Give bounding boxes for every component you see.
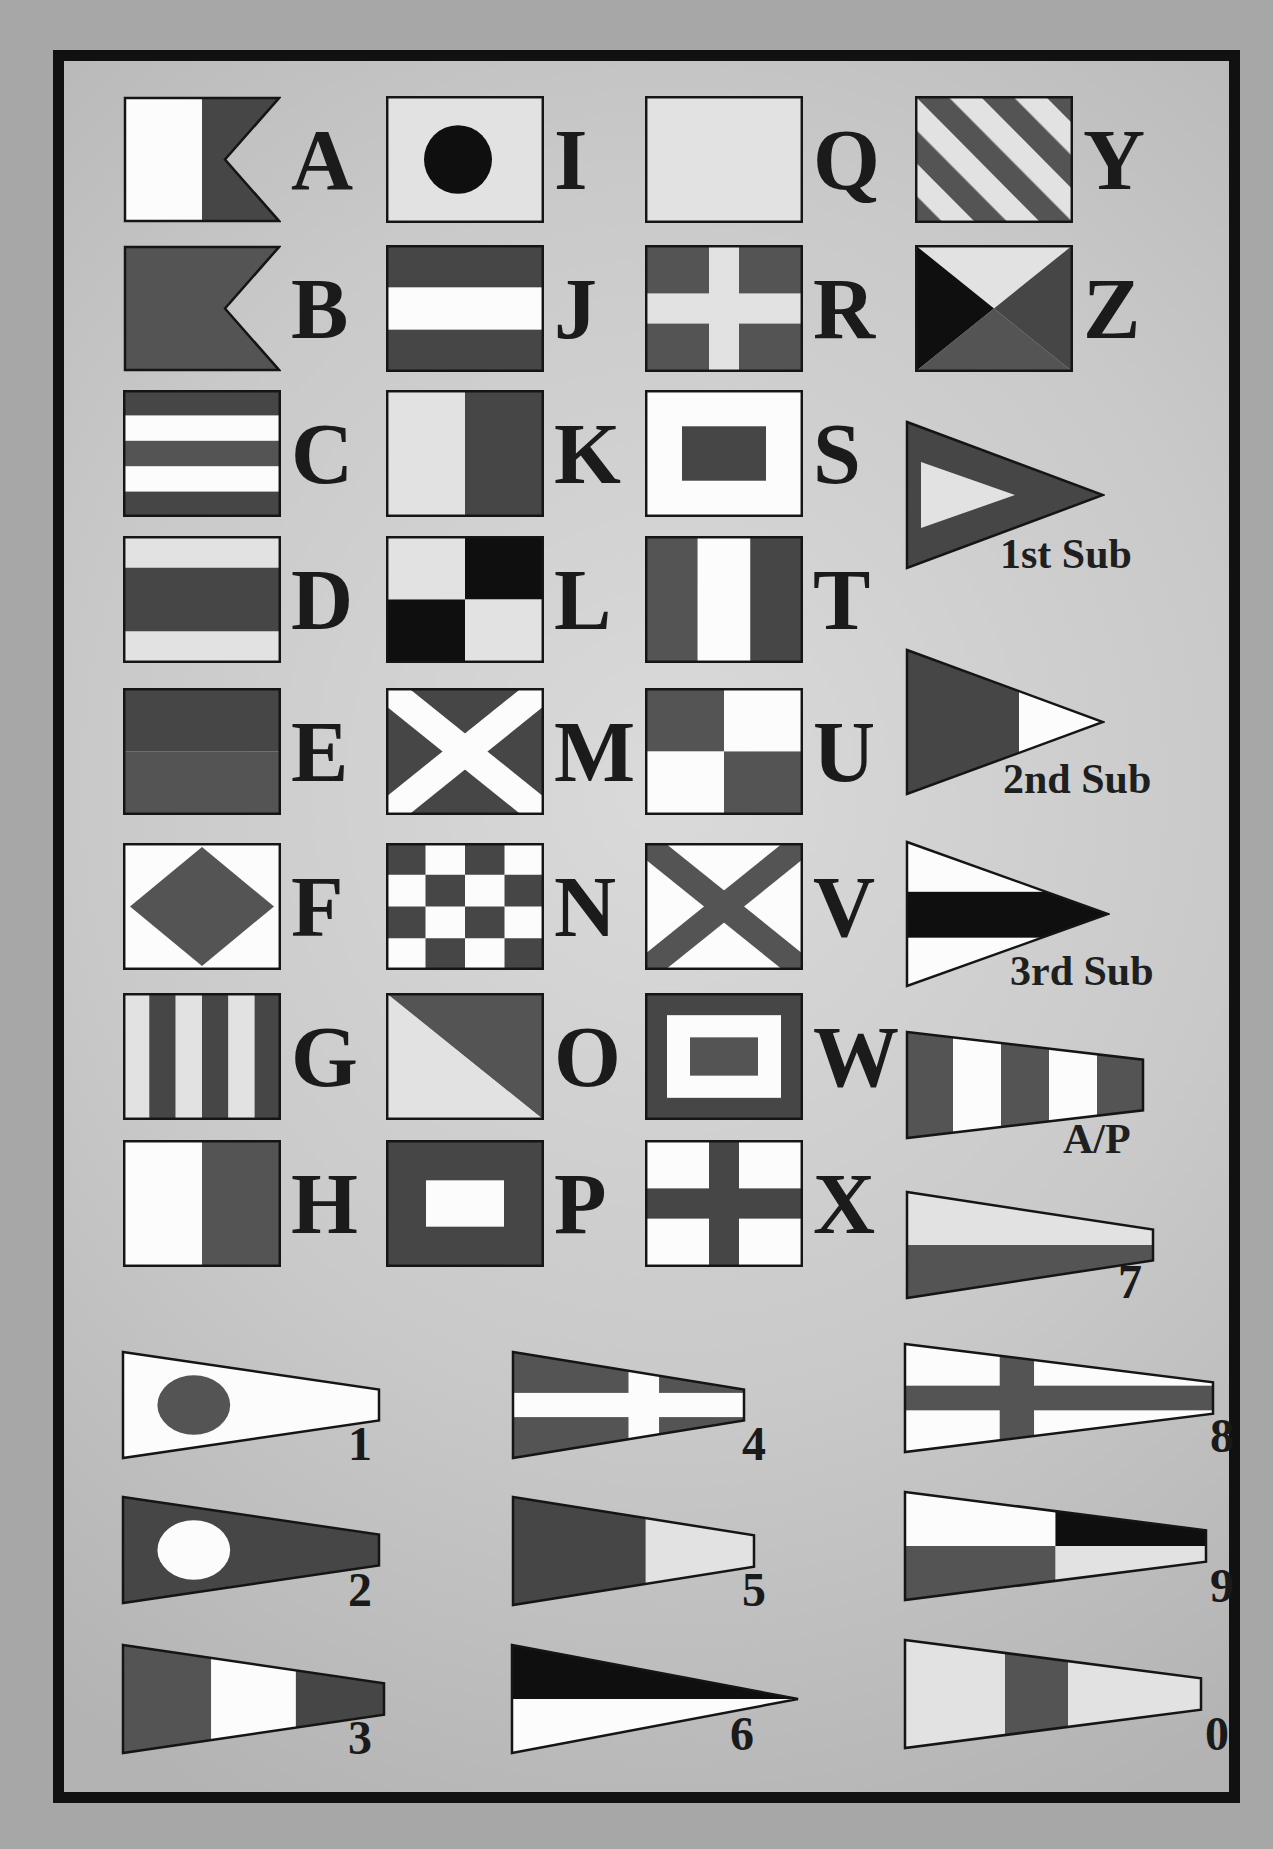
signal-flag-x	[645, 1140, 803, 1267]
pennant-flag-0	[903, 1638, 1203, 1750]
letter-label-w: W	[813, 993, 899, 1120]
pennant-label-4: 4	[742, 1420, 766, 1468]
pennant-label-0: 0	[1205, 1710, 1229, 1758]
signal-flag-t	[645, 536, 803, 663]
signal-flag-g	[123, 993, 281, 1120]
pennant-flag-1	[121, 1350, 381, 1460]
signal-flag-p	[386, 1140, 544, 1267]
signal-flag-b	[123, 245, 281, 372]
letter-label-l: L	[554, 536, 611, 663]
pennant-flag-9	[903, 1490, 1208, 1602]
letter-label-y: Y	[1083, 96, 1145, 223]
signal-flag-j	[386, 245, 544, 372]
signal-flag-n	[386, 843, 544, 970]
signal-flag-q	[645, 96, 803, 223]
pennant-flag-8	[903, 1342, 1215, 1454]
pennant-flag-6	[510, 1643, 800, 1755]
letter-label-t: T	[813, 536, 870, 663]
pennant-label-7: 7	[1118, 1258, 1142, 1306]
sub-label-3rdsub: 3rd Sub	[1010, 950, 1154, 992]
signal-flag-h	[123, 1140, 281, 1267]
signal-flag-v	[645, 843, 803, 970]
signal-flag-c	[123, 390, 281, 517]
signal-flag-m	[386, 688, 544, 815]
signal-flag-u	[645, 688, 803, 815]
pennant-flag-2	[121, 1495, 381, 1605]
letter-label-b: B	[291, 245, 348, 372]
letter-label-n: N	[554, 843, 616, 970]
signal-flag-l	[386, 536, 544, 663]
letter-label-r: R	[813, 245, 875, 372]
sub-label-2ndsub: 2nd Sub	[1003, 758, 1151, 800]
letter-label-a: A	[291, 96, 353, 223]
signal-flag-s	[645, 390, 803, 517]
signal-flag-z	[915, 245, 1073, 372]
letter-label-c: C	[291, 390, 353, 517]
letter-label-p: P	[554, 1140, 607, 1267]
letter-label-h: H	[291, 1140, 358, 1267]
signal-flag-o	[386, 993, 544, 1120]
signal-flag-f	[123, 843, 281, 970]
letter-label-d: D	[291, 536, 353, 663]
letter-label-m: M	[554, 688, 635, 815]
letter-label-i: I	[554, 96, 587, 223]
letter-label-e: E	[291, 688, 348, 815]
signal-flag-d	[123, 536, 281, 663]
letter-label-q: Q	[813, 96, 880, 223]
pennant-label-6: 6	[730, 1710, 754, 1758]
signal-flag-y	[915, 96, 1073, 223]
letter-label-u: U	[813, 688, 875, 815]
pennant-label-2: 2	[348, 1566, 372, 1614]
signal-flag-i	[386, 96, 544, 223]
letter-label-k: K	[554, 390, 621, 517]
letter-label-z: Z	[1083, 245, 1140, 372]
signal-flag-r	[645, 245, 803, 372]
pennant-label-5: 5	[742, 1566, 766, 1614]
pennant-label-9: 9	[1210, 1562, 1234, 1610]
pennant-label-1: 1	[348, 1420, 372, 1468]
letter-label-j: J	[554, 245, 597, 372]
signal-flag-k	[386, 390, 544, 517]
sub-label-ap: A/P	[1063, 1118, 1131, 1160]
pennant-flag-3	[121, 1643, 386, 1755]
letter-label-v: V	[813, 843, 875, 970]
pennant-label-3: 3	[348, 1714, 372, 1762]
signal-flag-e	[123, 688, 281, 815]
pennant-flag-4	[511, 1350, 746, 1460]
signal-flag-a	[123, 96, 281, 223]
pennant-flag-5	[511, 1495, 756, 1607]
letter-label-o: O	[554, 993, 621, 1120]
letter-label-x: X	[813, 1140, 875, 1267]
letter-label-s: S	[813, 390, 861, 517]
letter-label-f: F	[291, 843, 344, 970]
pennant-label-8: 8	[1210, 1412, 1234, 1460]
signal-flag-w	[645, 993, 803, 1120]
letter-label-g: G	[291, 993, 358, 1120]
sub-label-1stsub: 1st Sub	[1000, 533, 1132, 575]
page-background: ABCDEFGHIJKLMNOPQRSTUVWXYZ1st Sub2nd Sub…	[0, 0, 1273, 1849]
